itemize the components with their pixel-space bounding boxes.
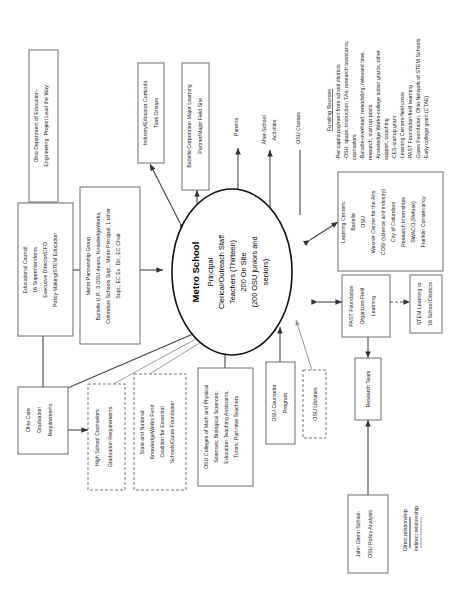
box-battelle-corp[interactable]: Battelle Corporation Major Learning Part… [182,63,209,190]
legend: Direct relationship Indirect relationshi… [402,506,421,551]
box-hs-counselors[interactable]: High School Counselors: Graduation Requi… [88,384,125,490]
funding-item-6: support, coaching [383,118,389,160]
funding-item-5: -Knowledge Works-college tuition grants,… [375,50,381,160]
research-line-0: Research Team [365,370,371,408]
industry-line-1: Task Groups [153,98,159,128]
osuclasses-text: OSU Classes [295,112,301,144]
council-line-2: Executive Director/CFO [42,242,48,298]
partnership-line-3: Supt., EC Ex. Dir., EC Chair [115,233,121,299]
lc-line-8: Franklin Conservancy [420,196,426,248]
metro-line-5: seniors) [261,259,270,285]
box-john-glenn[interactable]: John Glenn School- OSU Policy Analysis [348,495,388,573]
ohiocore-line-1: Graduation [36,407,42,433]
box-research-team[interactable]: Research Team [355,358,381,420]
ohio-dept-line-0: Ohio Department of Education- [33,89,39,162]
lc-line-4: COSI (science and industry) [380,189,386,255]
metro-line-1: Clerical/Outreach Staff [217,234,226,309]
legend-direct-label: Direct relationship [402,509,408,551]
council-line-0: Educational Council [22,247,28,294]
partnership-line-1: Battelle U.P., 3 OSU deans, KnowledgeWor… [95,211,101,320]
stem-line-1: 16 School Districts [427,282,433,326]
funding-item-7: -CES-startup grant [391,115,397,160]
battelle-line-1: Partner/Major Field Site [197,98,203,154]
box-stem-learning[interactable]: STEM Learning to 16 School Districts [410,275,442,333]
label-after-school: After-School Activities [261,115,277,144]
label-parents: Parents [233,118,239,137]
partnership-line-0: Metro Partnership Group [85,237,91,295]
funding-item-0: -Per capita payment from school district… [335,64,341,160]
funding-item-11: -Early college grant (CTAE) [423,95,429,160]
funding-sources: Funding Sources -Per capita payment from… [326,38,429,160]
box-ohio-core[interactable]: Ohio Core Graduation Requirements [18,387,68,454]
counselors-line-0: High School Counselors: [94,408,100,466]
box-osu-colleges[interactable]: OSU Colleges of Math and Physical Scienc… [198,368,253,486]
afterschool-line-0: After-School [261,115,267,144]
edge-metro-industry [150,164,180,223]
counselors-line-1: Graduation Requirements [107,406,113,467]
council-line-3: Policy-Making/STEM Education [52,233,58,307]
parents-text: Parents [233,118,239,137]
past-line-1: Organizes Field [359,287,365,324]
funding-item-2: counselors [351,134,357,160]
box-ohio-dept-education[interactable]: Ohio Department of Education- Engineerin… [29,50,58,202]
osulibraries-line-0: OSU Libraries [312,387,318,421]
johnglenn-line-0: John Glenn School- [355,511,361,558]
metro-line-2: Teachers (Thirteen) [228,240,237,304]
box-learning-centers[interactable]: Learning Centers: Battelle OSU Wexner Ce… [338,172,443,271]
metro-school-title: Metro School [190,242,201,303]
funding-item-8: -Learning Centers-field costs [399,92,405,160]
ohiocore-line-0: Ohio Core [25,408,31,432]
johnglenn-line-1: OSU Policy Analysis [367,510,373,558]
ohiocore-line-2: Requirements [47,403,53,436]
lc-line-6: Research Internships [400,197,406,247]
funding-item-9: -PAST Foundation-field learning [407,85,413,160]
box-past-foundation[interactable]: PAST Foundation Organizes Field Learning [342,275,390,337]
statenat-line-0: State and National: [139,409,145,454]
metro-line-0: Principal [206,257,215,286]
battelle-line-0: Battelle Corporation Major Learning [186,84,192,168]
metro-line-4: (200 OSU juniors and [250,236,259,307]
lc-line-7: SWACO (Refuse) [410,201,416,243]
partnership-line-2: Columbus Schools Supt., Metro Principal,… [105,208,111,324]
metro-school-node[interactable]: Metro School Principal Clerical/Outreach… [172,189,292,355]
lc-line-0: Learning Centers: [340,201,346,243]
industry-line-0: Industry/Educator Curricula [142,81,148,145]
funding-item-3: -Battelle-overhead, remodeling, released… [359,51,365,160]
statenat-line-2: Coalition for Essential [159,406,165,457]
funding-item-4: research, start up posts [367,104,373,160]
lc-line-5: City of Columbus [390,201,396,242]
box-industry-educator[interactable]: Industry/Educator Curricula Task Groups [138,63,164,163]
council-line-1: 16 Superintendents [32,247,38,293]
lc-line-3: Wexner Center for the Arts [370,190,376,253]
osucolleges-line-1: Sciences; Biological Sciences; [213,391,219,463]
lc-line-2: OSU [360,216,366,228]
metro-line-3: 200 On Site [239,252,248,291]
legend-indirect-label: Indirect relationship [413,506,419,551]
edge-metro-learningcenters [310,222,338,240]
label-osu-classes: OSU Classes [295,112,301,144]
osucounselor-line-1: Program [282,392,288,413]
box-educational-council[interactable]: Educational Council 16 Superintendents E… [18,203,73,336]
box-state-national[interactable]: State and National: KnowledgeWorks Fund … [134,374,186,490]
edge-osulibraries-metro [296,320,312,370]
afterschool-line-1: Activities [271,119,277,140]
statenat-line-3: Schools/Gates Foundation [169,401,175,463]
funding-header: Funding Sources [326,89,332,131]
lc-line-1: Battelle [350,213,356,231]
past-line-0: PAST Foundation [348,285,354,326]
box-osu-counselor[interactable]: OSU Counselor Program [266,362,295,444]
funding-item-1: -OSU: space, instruction, TAs, research … [343,41,349,160]
box-osu-libraries[interactable]: OSU Libraries [303,370,326,438]
osucolleges-line-0: OSU Colleges of Math and Physical [203,385,209,469]
org-diagram: Metro School Principal Clerical/Outreach… [0,0,464,597]
past-line-2: Learning [370,296,376,317]
ohio-dept-line-1: Engineering: Project Lead the Way [43,85,49,167]
box-metro-partnership[interactable]: Metro Partnership Group Battelle U.P., 3… [80,187,140,344]
diagram-canvas: Metro School Principal Clerical/Outreach… [0,0,464,597]
osucolleges-line-3: Tutors, Part-time Teachers [233,396,239,458]
osucolleges-line-2: Education-Teaching Assistants, [223,390,229,463]
statenat-line-1: KnowledgeWorks Fund [149,405,155,460]
osucounselor-line-0: OSU Counselor [271,384,277,421]
stem-line-0: STEM Learning to [416,283,422,326]
funding-item-10: -Gates Foundation, Ohio Network of STEM … [415,38,421,160]
